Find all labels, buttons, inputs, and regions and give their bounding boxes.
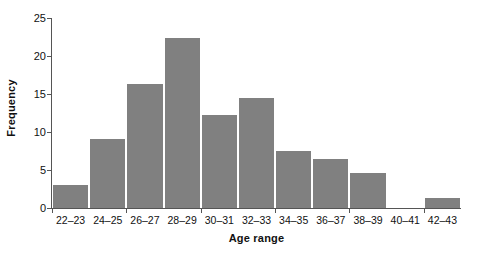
x-axis-tick-label: 34–35 <box>279 214 308 226</box>
y-axis-tick-label: 0 <box>20 202 46 214</box>
bar <box>52 185 89 208</box>
bar <box>126 84 163 208</box>
x-axis-tick-label: 38–39 <box>353 214 382 226</box>
histogram-figure: Frequency 0510152025 22–2324–2526–2728–2… <box>0 0 478 258</box>
x-axis-tick-label: 22–23 <box>56 214 85 226</box>
x-axis-tick-mark <box>52 209 53 213</box>
x-axis-tick-mark <box>424 209 425 213</box>
x-axis-tick-label: 32–33 <box>242 214 271 226</box>
x-axis-tick-mark <box>349 209 350 213</box>
x-axis-tick-label: 24–25 <box>93 214 122 226</box>
x-axis-tick-mark <box>126 209 127 213</box>
x-axis-tick-label: 36–37 <box>316 214 345 226</box>
bar <box>312 159 349 208</box>
y-axis-tick-label: 5 <box>20 164 46 176</box>
y-axis-tick-label: 15 <box>20 88 46 100</box>
bar <box>89 139 126 208</box>
x-axis-title: Age range <box>52 232 461 244</box>
bar <box>275 151 312 208</box>
bar <box>164 38 201 208</box>
y-axis-tick-label: 20 <box>20 50 46 62</box>
x-axis-tick-label: 42–43 <box>428 214 457 226</box>
bar <box>238 98 275 208</box>
x-axis-tick-labels: 22–2324–2526–2728–2930–3132–3334–3536–37… <box>52 214 461 230</box>
plot-area <box>52 18 461 208</box>
x-axis-tick-mark <box>201 209 202 213</box>
bar <box>201 115 238 208</box>
x-axis-tick-label: 30–31 <box>205 214 234 226</box>
bar <box>349 173 386 208</box>
bar <box>424 198 461 208</box>
x-axis-tick-label: 28–29 <box>168 214 197 226</box>
x-axis-tick-mark <box>275 209 276 213</box>
y-axis-tick-labels: 0510152025 <box>20 0 46 215</box>
x-axis-tick-label: 40–41 <box>391 214 420 226</box>
y-axis-tick-label: 25 <box>20 12 46 24</box>
x-axis-tick-label: 26–27 <box>130 214 159 226</box>
y-axis-title-text: Frequency <box>5 79 17 136</box>
y-axis-tick-label: 10 <box>20 126 46 138</box>
y-axis-title: Frequency <box>0 0 22 215</box>
